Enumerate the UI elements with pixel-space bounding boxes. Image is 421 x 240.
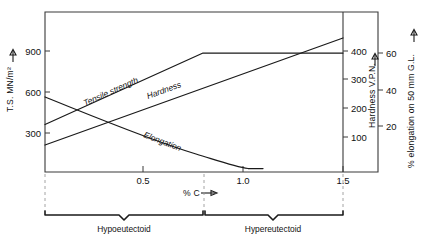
left-axis-tick-600: 600 (25, 87, 41, 98)
hardness-axis-label: Hardness V.P.N. (367, 63, 377, 128)
x-axis: 0.5 1.0 1.5 % C (136, 166, 349, 198)
elongation-axis-label: % elongation on 50 mm G.L. (406, 54, 416, 168)
hardness-axis-tick-300: 300 (351, 74, 367, 85)
curve-label-tensile-strength: Tensile strength (82, 75, 140, 108)
left-axis-arrow-icon (10, 50, 16, 63)
brace-hypoeutectoid (45, 211, 203, 220)
elongation-axis-tick-60: 60 (386, 48, 397, 59)
elongation-axis: 60 40 20 % elongation on 50 mm G.L. (378, 30, 417, 169)
hardness-axis-tick-100: 100 (351, 132, 367, 143)
hardness-axis: 400 300 200 100 Hardness V.P.N. (343, 46, 378, 143)
x-axis-arrow-icon (201, 191, 217, 196)
hardness-axis-tick-400: 400 (351, 46, 367, 57)
left-axis: 900 600 300 T.S. MN/m² (5, 46, 50, 139)
brace-hypereutectoid (205, 211, 343, 220)
elongation-axis-tick-40: 40 (386, 85, 397, 96)
chart-figure: 900 600 300 T.S. MN/m² 0.5 1.0 1.5 % C 4… (0, 0, 421, 240)
x-axis-tick-1-0: 1.0 (236, 175, 249, 186)
elongation-axis-tick-20: 20 (386, 121, 397, 132)
region-label-hypereutectoid: Hypereutectoid (245, 224, 302, 234)
curve-label-elongation: Elongation (142, 130, 183, 154)
left-axis-tick-300: 300 (25, 128, 41, 139)
left-axis-label: T.S. MN/m² (5, 67, 15, 112)
x-axis-tick-0-5: 0.5 (136, 175, 149, 186)
left-axis-tick-900: 900 (25, 46, 41, 57)
hardness-axis-tick-200: 200 (351, 103, 367, 114)
region-label-hypoeutectoid: Hypoeutectoid (97, 224, 151, 234)
elongation-axis-arrow-icon (411, 30, 417, 43)
x-axis-label: % C (183, 188, 200, 198)
chart-svg: 900 600 300 T.S. MN/m² 0.5 1.0 1.5 % C 4… (0, 0, 421, 240)
series-tensile-strength (45, 53, 343, 125)
series-hardness (45, 38, 343, 145)
